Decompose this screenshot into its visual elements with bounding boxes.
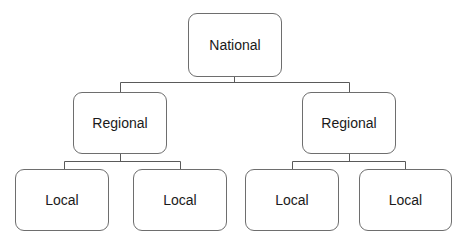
node-local-3: Local	[245, 169, 339, 231]
node-label: Regional	[92, 115, 147, 131]
node-label: Local	[45, 192, 78, 208]
node-local-1: Local	[15, 169, 109, 231]
node-label: Regional	[321, 115, 376, 131]
node-regional-left: Regional	[73, 92, 167, 154]
node-local-4: Local	[359, 169, 452, 231]
node-label: National	[209, 37, 260, 53]
node-regional-right: Regional	[302, 92, 396, 154]
node-national: National	[188, 13, 282, 77]
node-label: Local	[275, 192, 308, 208]
node-local-2: Local	[133, 169, 227, 231]
node-label: Local	[163, 192, 196, 208]
node-label: Local	[389, 192, 422, 208]
